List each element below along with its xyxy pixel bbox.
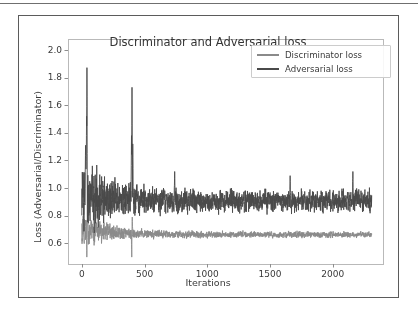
x-tick-label: 1000 xyxy=(190,270,224,279)
figure-page: Discriminator and Adversarial loss Itera… xyxy=(0,0,418,319)
chart-legend: Discriminator loss Adversarial loss xyxy=(251,45,391,78)
y-axis-label: Loss (Adversarial/Discriminator) xyxy=(33,91,43,243)
x-tick-label: 2000 xyxy=(316,270,350,279)
figure-inner: Discriminator and Adversarial loss Itera… xyxy=(19,16,398,297)
y-tick-label: 0.8 xyxy=(36,211,62,220)
y-tick-label: 1.0 xyxy=(36,184,62,193)
x-tick-label: 1500 xyxy=(253,270,287,279)
y-tick-label: 1.4 xyxy=(36,128,62,137)
legend-line-swatch-discriminator xyxy=(257,54,279,56)
figure-frame: Discriminator and Adversarial loss Itera… xyxy=(18,15,399,298)
y-tick-label: 2.0 xyxy=(36,46,62,55)
y-tick-label: 1.6 xyxy=(36,101,62,110)
legend-line-swatch-adversarial xyxy=(257,68,279,70)
x-tick-label: 500 xyxy=(128,270,162,279)
y-tick-label: 1.8 xyxy=(36,73,62,82)
legend-label-adversarial: Adversarial loss xyxy=(285,64,353,74)
y-tick-label: 1.2 xyxy=(36,156,62,165)
legend-label-discriminator: Discriminator loss xyxy=(285,50,362,60)
y-tick-label: 0.6 xyxy=(36,239,62,248)
legend-item-adversarial-loss: Adversarial loss xyxy=(257,62,353,76)
page-top-divider xyxy=(0,3,418,4)
x-tick-label: 0 xyxy=(65,270,99,279)
legend-item-discriminator-loss: Discriminator loss xyxy=(257,48,362,62)
x-axis-label: Iterations xyxy=(19,278,397,288)
